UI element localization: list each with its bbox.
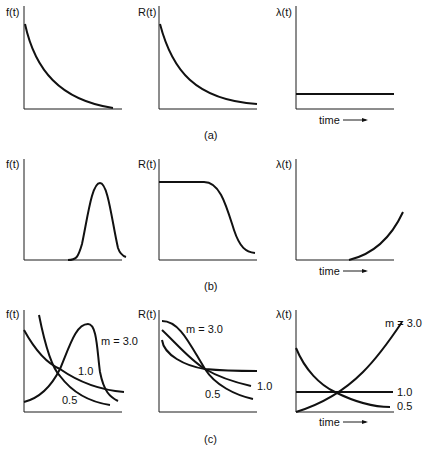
annotation-m-3.0: m = 3.0: [186, 323, 223, 335]
y-axis-label: f(t): [6, 308, 19, 320]
row-b: f(t) R(t) λ(t) time (b): [6, 158, 403, 292]
y-axis-label: λ(t): [276, 158, 292, 170]
row-a: f(t) R(t) λ(t) time (a): [6, 6, 394, 141]
y-axis-label: λ(t): [276, 308, 292, 320]
panel-a-hazard: λ(t) time: [276, 6, 394, 126]
y-axis-label: R(t): [138, 6, 156, 18]
panel-c-pdf: f(t) m = 3.0 1.0 0.5: [6, 308, 138, 412]
arrow-head-icon: [362, 118, 368, 122]
x-axis-label: time: [319, 416, 340, 428]
row-c: f(t) m = 3.0 1.0 0.5 R(t) m = 3.0 1.0 0.…: [6, 308, 422, 445]
row-label: (c): [204, 433, 217, 445]
reliability-functions-diagram: f(t) R(t) λ(t) time (a) f(t) R(t): [0, 0, 426, 451]
panel-a-pdf: f(t): [6, 6, 122, 109]
annotation-m-0.5: 0.5: [397, 400, 412, 412]
curve-increasing-hazard: [349, 212, 403, 260]
curve-exponential-pdf: [25, 24, 113, 108]
x-axis-label: time: [319, 114, 340, 126]
annotation-m-0.5: 0.5: [62, 394, 77, 406]
arrow-head-icon: [362, 420, 368, 424]
annotation-m-1.0: 1.0: [78, 365, 93, 377]
panel-b-hazard: λ(t) time: [276, 158, 403, 277]
annotation-m-1.0: 1.0: [257, 380, 272, 392]
panel-b-pdf: f(t): [6, 158, 126, 260]
annotation-m-0.5: 0.5: [205, 388, 220, 400]
y-axis-label: R(t): [138, 308, 156, 320]
panel-c-hazard: λ(t) m = 3.0 1.0 0.5 time: [276, 308, 422, 428]
annotation-m-3.0: m = 3.0: [101, 335, 138, 347]
annotation-m-3.0: m = 3.0: [385, 317, 422, 329]
x-axis-label: time: [319, 265, 340, 277]
y-axis-label: f(t): [6, 6, 19, 18]
y-axis-label: R(t): [138, 158, 156, 170]
row-label: (a): [204, 129, 217, 141]
panel-b-reliability: R(t): [138, 158, 257, 260]
y-axis-label: λ(t): [276, 6, 292, 18]
curve-bell-pdf: [68, 183, 126, 260]
panel-a-reliability: R(t): [138, 6, 257, 109]
y-axis-label: f(t): [6, 158, 19, 170]
axes: [24, 6, 122, 109]
panel-c-reliability: R(t) m = 3.0 1.0 0.5: [138, 308, 272, 412]
axes: [24, 159, 122, 260]
annotation-m-1.0: 1.0: [397, 386, 412, 398]
axes: [159, 159, 257, 260]
curve-wearout-reliability: [159, 182, 255, 253]
arrow-head-icon: [362, 269, 368, 273]
curve-exponential-reliability: [160, 24, 257, 104]
row-label: (b): [204, 280, 217, 292]
